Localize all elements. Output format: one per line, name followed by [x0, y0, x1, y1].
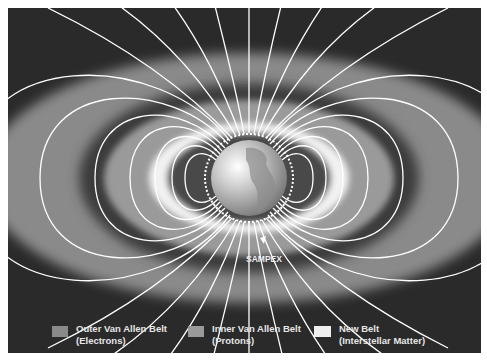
legend-sublabel: (Electrons)	[76, 335, 167, 347]
van-allen-diagram: SAMPEX Outer Van Allen Belt (Electrons) …	[8, 8, 481, 353]
legend-label: New Belt	[339, 323, 425, 335]
sampex-label: SAMPEX	[246, 254, 282, 264]
legend-item-new-belt: New Belt (Interstellar Matter)	[314, 323, 425, 353]
legend-label: Outer Van Allen Belt	[76, 323, 167, 335]
legend-item-inner-belt: Inner Van Allen Belt (Protons)	[188, 323, 301, 353]
legend-label: Inner Van Allen Belt	[212, 323, 301, 335]
legend-item-outer-belt: Outer Van Allen Belt (Electrons)	[52, 323, 167, 353]
legend-sublabel: (Protons)	[212, 335, 301, 347]
belt-diagram-graphic	[8, 8, 481, 353]
legend-sublabel: (Interstellar Matter)	[339, 335, 425, 347]
inner-belt-swatch	[188, 326, 204, 337]
new-belt-swatch	[314, 326, 331, 337]
outer-belt-swatch	[52, 326, 68, 337]
